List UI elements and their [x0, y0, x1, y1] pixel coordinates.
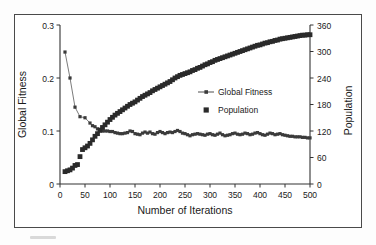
y-axis-title-left: Global Fitness [16, 71, 28, 138]
datapoint-global-fitness [73, 106, 76, 109]
scan-artifact [30, 236, 56, 239]
x-tick-label: 0 [58, 190, 63, 200]
x-tick-label: 400 [253, 190, 267, 200]
x-tick-label: 500 [303, 190, 317, 200]
y-tick-label-right: 180 [317, 100, 331, 110]
y-tick-label-right: 300 [317, 47, 331, 57]
datapoint-global-fitness [63, 50, 66, 53]
x-tick-label: 200 [153, 190, 167, 200]
datapoint-global-fitness [78, 115, 81, 118]
y-axis-title-right: Population [342, 86, 354, 136]
y-tick-label-right: 240 [317, 74, 331, 84]
x-axis-title: Number of Iterations [137, 204, 232, 216]
x-tick-label: 300 [203, 190, 217, 200]
y-tick-label-right: 120 [317, 127, 331, 137]
legend-label-population: Population [218, 105, 258, 115]
datapoint-population [78, 154, 83, 159]
y-tick-label-left: 0.1 [42, 127, 54, 137]
y-tick-label-right: 360 [317, 21, 331, 31]
datapoint-global-fitness [68, 76, 71, 79]
series-line-global-fitness [65, 52, 310, 138]
x-tick-label: 150 [128, 190, 142, 200]
legend-marker-global-fitness [204, 90, 208, 94]
datapoint-population [75, 162, 80, 167]
datapoint-global-fitness [308, 136, 311, 139]
x-tick-label: 250 [178, 190, 192, 200]
chart-canvas: 05010015020025030035040045050000.10.20.3… [0, 0, 376, 245]
datapoint-population [308, 32, 313, 37]
legend-label-global-fitness: Global Fitness [218, 87, 272, 97]
y-tick-label-right: 60 [317, 153, 327, 163]
y-tick-label-right: 0 [317, 180, 322, 190]
y-tick-label-left: 0.2 [42, 74, 54, 84]
legend-marker-population [204, 107, 209, 112]
y-tick-label-left: 0.3 [42, 21, 54, 31]
y-tick-label-left: 0 [49, 180, 54, 190]
x-tick-label: 350 [228, 190, 242, 200]
chart-svg: 05010015020025030035040045050000.10.20.3… [0, 0, 376, 245]
x-tick-label: 100 [103, 190, 117, 200]
datapoint-global-fitness [83, 116, 86, 119]
x-tick-label: 450 [278, 190, 292, 200]
chart-screenshot: 05010015020025030035040045050000.10.20.3… [0, 0, 376, 245]
x-tick-label: 50 [80, 190, 90, 200]
